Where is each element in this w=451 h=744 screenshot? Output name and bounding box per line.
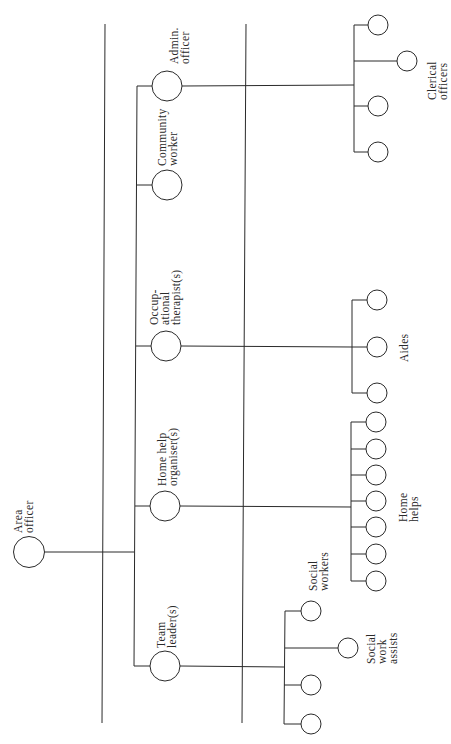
home-help-organiser-label: Home help organiser(s) [156,428,180,486]
home-helps-label: Home helps [397,493,421,522]
aide-node [367,290,387,310]
socialworkers-spine [284,611,285,724]
home-help-node [366,439,386,459]
svg-text:Aides: Aides [398,333,410,362]
svg-text:helps: helps [408,496,421,522]
social-workers-label: Social workers [307,552,330,591]
svg-text:officer: officer [23,500,35,533]
svg-text:therapist(s): therapist(s) [170,270,183,325]
community-worker-label: Community worker [156,108,179,166]
home-help-node [366,465,386,485]
social-work-assists-label: Social work assists [365,632,399,664]
home-help-organiser-node [150,491,180,521]
clerical-officer-node [397,51,417,71]
svg-text:worker: worker [167,132,179,166]
social-worker-node [301,714,321,734]
team-leader-node [150,651,180,681]
org-chart: Area officer Admin. officer Community wo… [0,0,451,744]
svg-text:leader(s): leader(s) [166,605,179,648]
home-help-node [366,544,386,564]
clerical-officer-node [368,142,388,162]
area-officer-label: Area officer [12,500,35,533]
community-worker-node [152,170,182,200]
admin-officer-node [152,71,182,101]
clerical-officer-node [368,15,388,35]
clerical-officer-node [368,96,388,116]
hho-to-homehelps [180,506,351,507]
occupational-therapist-node [151,331,181,361]
admin-to-clerical [182,85,354,86]
home-help-node [366,491,386,511]
svg-text:organiser(s): organiser(s) [167,428,180,486]
tier-divider-1 [102,24,105,723]
svg-text:officer: officer [179,31,191,64]
aides-label: Aides [398,333,410,362]
aide-node [367,337,387,357]
area-officer-node [14,537,45,568]
home-help-node [366,412,386,432]
svg-text:officers: officers [437,62,449,100]
svg-text:workers: workers [318,552,330,591]
social-worker-node [301,601,321,621]
social-work-assist-node [338,638,358,658]
team-to-socialworkers [180,666,284,667]
clerical-officers-label: Clerical officers [426,61,449,100]
managers-spine [134,86,137,666]
svg-text:assists: assists [387,632,399,664]
team-leader-label: Team leader(s) [155,605,179,648]
admin-officer-label: Admin. officer [168,27,191,64]
social-worker-node [301,675,321,695]
tier-divider-2 [242,24,246,723]
home-help-node [366,571,386,591]
ot-to-aides [181,346,352,347]
occupational-therapist-label: Occup- ational therapist(s) [148,270,183,325]
home-help-node [366,517,386,537]
aide-node [367,383,387,403]
